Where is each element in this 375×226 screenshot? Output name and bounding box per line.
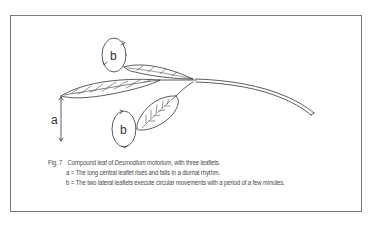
- caption-line-b: b = The two lateral leaflets execute cir…: [48, 178, 315, 188]
- caption-line-a: a = The long central leaflet rises and f…: [48, 168, 315, 178]
- caption-title-suffix: , with three leaflets.: [171, 159, 220, 166]
- label-a: a: [51, 113, 58, 127]
- figure-number: Fig. 7: [48, 158, 66, 168]
- figure-caption: Fig. 7 Compound leaf of Desmodium motori…: [48, 158, 315, 188]
- upper-lateral-leaflet: [124, 65, 193, 79]
- central-leaflet: [61, 79, 160, 98]
- caption-species-name: Desmodium motorium: [115, 159, 172, 166]
- label-b-lower: b: [120, 123, 127, 137]
- label-b-upper: b: [110, 49, 117, 63]
- caption-title-prefix: Compound leaf of: [68, 159, 115, 166]
- lower-lateral-leaflet: [137, 82, 193, 130]
- petiole-stem: [160, 79, 314, 115]
- compound-leaf-illustration: a b b: [0, 0, 375, 226]
- arrow-a: [59, 97, 63, 141]
- caption-title-line: Fig. 7 Compound leaf of Desmodium motori…: [48, 158, 315, 168]
